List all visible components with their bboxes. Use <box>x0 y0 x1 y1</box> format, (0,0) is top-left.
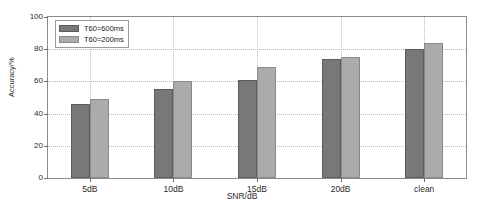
y-tick-mark <box>44 49 48 50</box>
x-tick-label: clean <box>414 185 434 194</box>
x-tick-label: 5dB <box>82 185 97 194</box>
bar-clean-series-1 <box>424 43 443 178</box>
y-tick-mark <box>44 114 48 115</box>
legend: T60=600ms T60=200ms <box>55 20 129 48</box>
y-tick-mark <box>44 17 48 18</box>
x-tick-mark <box>341 178 342 182</box>
legend-item-0: T60=600ms <box>59 23 124 34</box>
y-tick-label: 0 <box>39 174 43 182</box>
y-tick-label: 20 <box>34 142 43 150</box>
x-tick-label: 20dB <box>331 185 351 194</box>
y-tick-label: 40 <box>34 110 43 118</box>
bar-10dB-series-0 <box>154 89 173 178</box>
bar-10dB-series-1 <box>173 81 192 178</box>
legend-label-series-0: T60=600ms <box>84 25 124 33</box>
x-tick-mark <box>424 178 425 182</box>
x-tick-mark <box>257 178 258 182</box>
x-tick-label: 10dB <box>163 185 183 194</box>
bar-20dB-series-1 <box>341 57 360 178</box>
y-tick-label: 60 <box>34 77 43 85</box>
y-axis-label: Accuracy/% <box>8 57 16 97</box>
y-tick-mark <box>44 146 48 147</box>
legend-swatch-icon-series-1 <box>59 36 79 43</box>
bar-15dB-series-1 <box>257 67 276 178</box>
x-tick-mark <box>173 178 174 182</box>
bar-clean-series-0 <box>405 49 424 178</box>
x-tick-label: 15dB <box>247 185 267 194</box>
bar-15dB-series-0 <box>238 80 257 178</box>
y-tick-mark <box>44 81 48 82</box>
x-axis-label: SNR/dB <box>0 192 484 201</box>
y-tick-label: 100 <box>30 13 43 21</box>
y-tick-label: 80 <box>34 45 43 53</box>
legend-swatch-icon-series-0 <box>59 25 79 32</box>
bar-5dB-series-0 <box>71 104 90 178</box>
bar-chart-figure: Accuracy/% SNR/dB 0204060801005dB10dB15d… <box>0 0 484 205</box>
legend-label-series-1: T60=200ms <box>84 36 124 44</box>
bar-5dB-series-1 <box>90 99 109 178</box>
legend-item-1: T60=200ms <box>59 34 124 45</box>
bar-20dB-series-0 <box>322 59 341 178</box>
y-tick-mark <box>44 178 48 179</box>
x-tick-mark <box>90 178 91 182</box>
